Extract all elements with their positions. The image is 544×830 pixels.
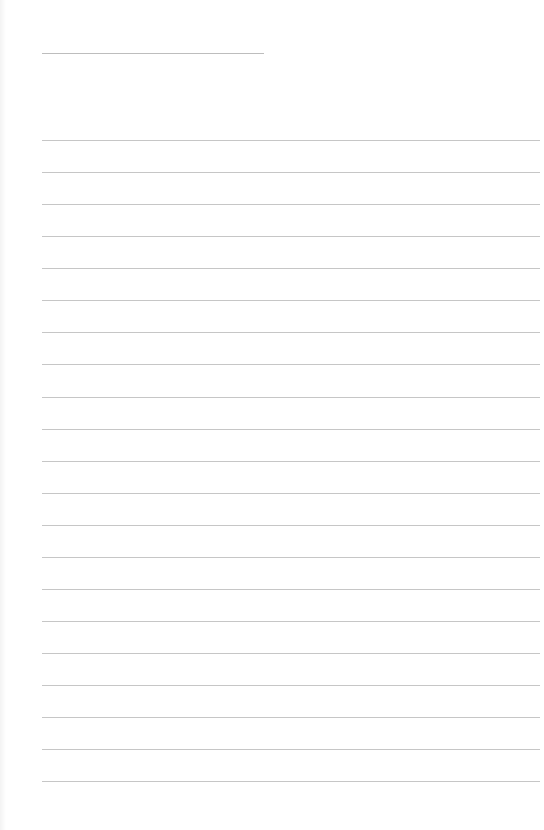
ruled-line bbox=[42, 364, 540, 365]
title-line bbox=[42, 53, 264, 54]
ruled-line bbox=[42, 717, 540, 718]
ruled-line bbox=[42, 332, 540, 333]
ruled-line bbox=[42, 589, 540, 590]
ruled-line bbox=[42, 429, 540, 430]
ruled-line bbox=[42, 397, 540, 398]
ruled-line bbox=[42, 653, 540, 654]
ruled-line bbox=[42, 172, 540, 173]
ruled-line bbox=[42, 461, 540, 462]
ruled-line bbox=[42, 621, 540, 622]
ruled-line bbox=[42, 749, 540, 750]
ruled-line bbox=[42, 557, 540, 558]
ruled-line bbox=[42, 140, 540, 141]
ruled-line bbox=[42, 493, 540, 494]
ruled-line bbox=[42, 685, 540, 686]
ruled-line bbox=[42, 236, 540, 237]
ruled-line bbox=[42, 204, 540, 205]
page-edge-shadow bbox=[0, 0, 6, 830]
ruled-line bbox=[42, 781, 540, 782]
ruled-line bbox=[42, 525, 540, 526]
ruled-line bbox=[42, 300, 540, 301]
ruled-line bbox=[42, 268, 540, 269]
notebook-page bbox=[0, 0, 544, 830]
